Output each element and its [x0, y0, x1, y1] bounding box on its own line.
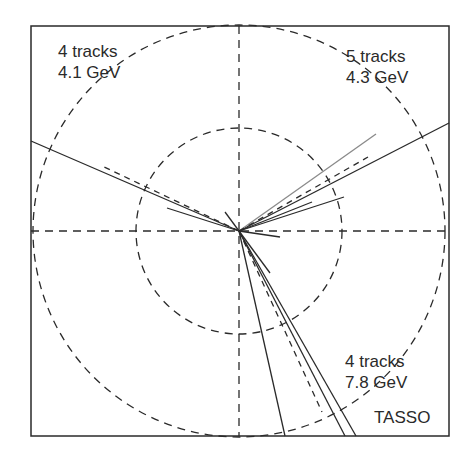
jet-left-tracks [31, 141, 239, 231]
energy-value: 7.8 GeV [345, 372, 407, 393]
detector-label: TASSO [374, 408, 430, 428]
jet-label-top-right: 5 tracks 4.3 GeV [346, 46, 408, 88]
tracks-count: 4 tracks [345, 351, 407, 372]
tracks-count: 5 tracks [346, 46, 408, 67]
jet-lower-tracks [239, 231, 356, 436]
tracks-count: 4 tracks [58, 41, 120, 62]
energy-value: 4.3 GeV [346, 67, 408, 88]
jet-right-tracks [239, 123, 449, 237]
energy-value: 4.1 GeV [58, 62, 120, 83]
jet-label-top-left: 4 tracks 4.1 GeV [58, 41, 120, 83]
jet-label-bottom-right: 4 tracks 7.8 GeV [345, 351, 407, 393]
